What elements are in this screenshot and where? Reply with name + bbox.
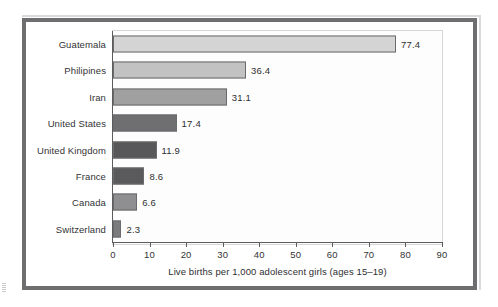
x-tick-label: 0 (110, 249, 115, 260)
bar-row: France8.6 (0, 163, 498, 189)
bar-row: United States17.4 (0, 110, 498, 136)
x-tick-label: 70 (363, 249, 374, 260)
bar-row: Iran31.1 (0, 84, 498, 110)
x-tick-mark (296, 243, 297, 247)
bar-row: United Kingdom11.9 (0, 137, 498, 163)
x-tick-label: 20 (181, 249, 192, 260)
x-tick-label: 10 (144, 249, 155, 260)
x-tick-label: 60 (327, 249, 338, 260)
x-tick-mark (150, 243, 151, 247)
category-label: France (76, 171, 106, 182)
x-tick-label: 90 (437, 249, 448, 260)
bar (113, 141, 157, 158)
bar (113, 88, 227, 105)
x-tick-mark (259, 243, 260, 247)
bar (113, 220, 121, 237)
bar (113, 194, 137, 211)
x-tick-mark (369, 243, 370, 247)
bar-row: Guatemala77.4 (0, 31, 498, 57)
bar-value-label: 6.6 (142, 197, 156, 208)
bar (113, 36, 396, 53)
category-label: Guatemala (59, 39, 106, 50)
bar-value-label: 17.4 (182, 118, 201, 129)
bar-value-label: 2.3 (126, 223, 140, 234)
x-tick-mark (223, 243, 224, 247)
bar-row: Switzerland2.3 (0, 216, 498, 242)
bar (113, 115, 177, 132)
x-tick-mark (332, 243, 333, 247)
bar-row: Canada6.6 (0, 189, 498, 215)
bar (113, 62, 246, 79)
x-tick-mark (113, 243, 114, 247)
category-label: Philipines (64, 65, 106, 76)
chart-screenshot: Guatemala77.4Philipines36.4Iran31.1Unite… (0, 0, 498, 307)
x-tick-mark (186, 243, 187, 247)
x-tick-label: 50 (290, 249, 301, 260)
x-tick-mark (405, 243, 406, 247)
category-label: United Kingdom (37, 144, 106, 155)
x-axis-title: Live births per 1,000 adolescent girls (… (112, 266, 443, 277)
bar-value-label: 77.4 (401, 39, 420, 50)
frame-highlight-top (22, 15, 481, 17)
bar (113, 168, 144, 185)
bar-value-label: 31.1 (232, 91, 251, 102)
category-label: Iran (89, 91, 106, 102)
scan-artifact (2, 283, 6, 292)
category-label: Switzerland (56, 223, 106, 234)
category-label: Canada (72, 197, 106, 208)
bar-value-label: 36.4 (251, 65, 270, 76)
x-tick-label: 30 (217, 249, 228, 260)
bar-row: Philipines36.4 (0, 57, 498, 83)
x-tick-label: 40 (254, 249, 265, 260)
bar-value-label: 11.9 (162, 144, 181, 155)
x-axis-line (112, 242, 443, 243)
x-tick-label: 80 (400, 249, 411, 260)
x-tick-mark (442, 243, 443, 247)
bar-value-label: 8.6 (149, 171, 163, 182)
category-label: United States (48, 118, 106, 129)
